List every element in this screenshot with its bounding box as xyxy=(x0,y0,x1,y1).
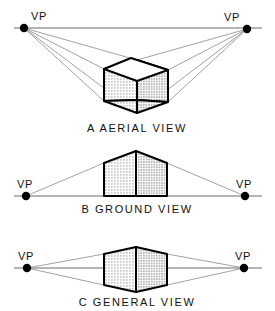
box-general xyxy=(104,247,167,292)
vp-label-right-ground: VP xyxy=(236,178,252,190)
panel-ground-view: VP VP B GROUND VIEW xyxy=(14,151,262,215)
box-right-face-ground xyxy=(136,151,167,196)
caption-ground-view: B GROUND VIEW xyxy=(81,203,192,215)
caption-general-view: C GENERAL VIEW xyxy=(79,296,196,308)
caption-aerial-view: A AERIAL VIEW xyxy=(87,122,187,134)
box-left-face-general xyxy=(104,247,136,292)
panel-aerial-view: VP VP A AERIAL VIEW xyxy=(14,10,262,134)
cube-right-bottom-aerial xyxy=(137,100,168,113)
vp-label-left-general: VP xyxy=(18,250,34,262)
vp-label-left-ground: VP xyxy=(17,178,33,190)
vp-label-left-aerial: VP xyxy=(31,10,47,22)
vanishing-point-right-general xyxy=(240,264,248,272)
perspective-views-diagram: VP VP A AERIAL VIEW VP VP B GROUND VIEW xyxy=(0,0,275,311)
vp-label-right-aerial: VP xyxy=(224,11,240,23)
vanishing-point-left-ground xyxy=(22,192,30,200)
vanishing-point-left-general xyxy=(23,264,31,272)
vanishing-point-right-aerial xyxy=(243,25,251,33)
box-left-face-ground xyxy=(104,151,136,196)
panel-general-view: VP VP C GENERAL VIEW xyxy=(14,247,262,308)
vp-label-right-general: VP xyxy=(235,250,251,262)
box-right-face-general xyxy=(136,247,167,292)
box-ground xyxy=(104,151,167,196)
diagram-canvas: VP VP A AERIAL VIEW VP VP B GROUND VIEW xyxy=(0,0,275,311)
cube-aerial xyxy=(104,58,168,113)
vanishing-point-left-aerial xyxy=(20,24,28,32)
vanishing-point-right-ground xyxy=(241,192,249,200)
cube-left-bottom-aerial xyxy=(104,100,137,113)
